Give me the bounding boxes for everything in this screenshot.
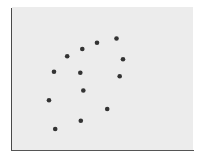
data-point bbox=[117, 74, 122, 79]
data-point bbox=[79, 118, 84, 123]
data-point bbox=[65, 54, 70, 59]
data-point bbox=[114, 36, 119, 41]
scatter-points bbox=[0, 0, 197, 160]
data-point bbox=[105, 107, 110, 112]
data-point bbox=[81, 88, 86, 93]
data-point bbox=[53, 127, 58, 132]
data-point bbox=[121, 57, 126, 62]
data-point bbox=[52, 69, 57, 74]
data-point bbox=[95, 40, 100, 45]
data-point bbox=[47, 98, 52, 103]
data-point bbox=[78, 70, 83, 75]
data-point bbox=[80, 47, 85, 52]
